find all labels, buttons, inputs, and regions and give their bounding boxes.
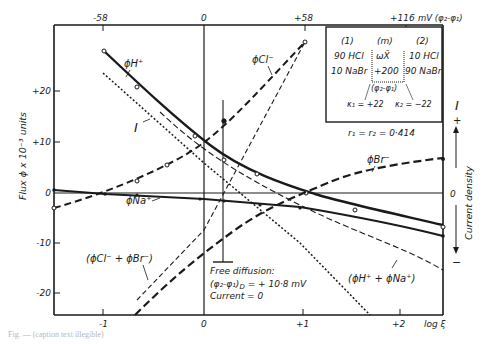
y-tick: +10 [32, 137, 51, 147]
x-tick: 0 [201, 319, 207, 329]
inset-left-1: 90 HCl [334, 51, 364, 61]
inset-potential: (φ₂-φ₁) [371, 84, 397, 93]
x2-tick: +58 [294, 13, 313, 23]
y-tick-labels: +20 +10 0 -10 -20 [32, 86, 51, 298]
label-sum-cations: (ϕH⁺ + ϕNa⁺) [348, 273, 415, 284]
free-diffusion-current: Current = 0 [210, 291, 263, 301]
inset-right-2: 90 NaBr [405, 66, 443, 76]
inset-left-2: 10 NaBr [331, 66, 369, 76]
inset-membrane-1: ωX̄ [376, 50, 391, 61]
curve-phi-na [54, 190, 443, 236]
y2-zero: 0 [450, 189, 456, 199]
x2-tick: +116 [390, 13, 415, 23]
figure-caption: Fig. — (caption text illegible) [8, 330, 104, 339]
x2-axis-label: mV (φ₂-φ₁) [418, 13, 463, 23]
r-equation: r₁ = r₂ = 0·414 [348, 128, 415, 138]
curve-phi-br [135, 158, 443, 315]
curve-phi-cl [54, 42, 305, 208]
inset-kappa-1: κ₁ = +22 [347, 100, 384, 109]
marker-phi-br [441, 157, 445, 161]
inset-header-m: (m) [377, 36, 393, 46]
label-phi-h: ϕH⁺ [124, 58, 143, 69]
y2-minus: − [452, 256, 461, 269]
label-current: I [134, 120, 138, 135]
x-tick-labels: -1 0 +1 +2 log ξ [99, 319, 447, 329]
inset-membrane-2: +200 [374, 66, 399, 76]
flux-chart: -1 0 +1 +2 log ξ -58 0 +58 +116 mV (φ₂-φ… [0, 0, 490, 344]
x-tick: -1 [99, 319, 108, 329]
y-tick: 0 [45, 188, 51, 198]
current-density-axis: I + 0 − Current density [450, 98, 474, 269]
y2-current-symbol: I [455, 98, 459, 113]
x-tick: +1 [296, 319, 309, 329]
y-tick: -20 [36, 288, 51, 298]
x-tick: +2 [392, 319, 406, 329]
x-axis-label: log ξ [424, 319, 447, 329]
x2-tick: 0 [201, 13, 207, 23]
x2-tick-labels: -58 0 +58 +116 mV (φ₂-φ₁) [93, 13, 463, 23]
inset-header-2: (2) [416, 36, 429, 46]
y-tick: -10 [36, 238, 51, 248]
label-phi-cl: ϕCl⁻ [252, 54, 274, 65]
free-diffusion-note: Free diffusion: (φ₂-φ₁)D = + 10·8 mV Cur… [210, 266, 307, 301]
inset-kappa-2: κ₂ = −22 [395, 100, 432, 109]
markers-phi-cl [52, 40, 307, 210]
y2-plus: + [453, 115, 461, 126]
y-axis-label: Flux ϕ x 10⁻³ units [17, 112, 28, 200]
label-phi-br: ϕBr⁻ [367, 154, 390, 165]
free-diffusion-title: Free diffusion: [210, 266, 275, 276]
label-phi-na: ϕNa⁺ [126, 195, 151, 206]
y2-axis-label: Current density [463, 166, 474, 240]
inset-header-1: (1) [341, 36, 354, 46]
label-sum-anions: (ϕCl⁻ + ϕBr⁻) [86, 253, 153, 264]
free-diffusion-potential: (φ₂-φ₁)D = + 10·8 mV [210, 279, 307, 291]
inset-system-box: (1) (m) (2) 90 HCl 10 NaBr ωX̄ +200 10 H… [326, 27, 443, 122]
y-tick: +20 [32, 86, 51, 96]
x2-tick: -58 [93, 13, 108, 23]
inset-right-1: 10 HCl [409, 51, 439, 61]
